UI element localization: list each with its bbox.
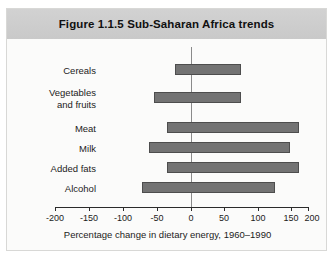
bar-alcohol xyxy=(142,182,275,193)
x-axis-tick xyxy=(224,207,225,211)
category-label-milk: Milk xyxy=(79,143,96,154)
bar-row: Added fats xyxy=(7,159,328,179)
category-label-meat: Meat xyxy=(75,123,96,134)
x-axis-tick xyxy=(291,207,292,211)
bar-row: Milk xyxy=(7,139,328,159)
bar-added-fats xyxy=(167,162,299,173)
bar-meat xyxy=(167,122,299,133)
x-tick-label: 200 xyxy=(304,213,319,223)
x-axis-tick xyxy=(308,207,309,211)
figure-title: Figure 1.1.5 Sub-Saharan Africa trends xyxy=(7,9,326,39)
category-label-line2: and fruits xyxy=(57,99,96,110)
bar-row: Meat xyxy=(7,119,328,139)
category-label-vegetables-and-fruits: Vegetables and fruits xyxy=(49,87,96,110)
x-tick-label: -100 xyxy=(114,213,132,223)
bar-row: Vegetables and fruits xyxy=(7,88,328,108)
x-tick-label: -150 xyxy=(80,213,98,223)
x-tick-label: -50 xyxy=(150,213,163,223)
x-axis-tick xyxy=(191,207,192,211)
bar-milk xyxy=(149,142,290,153)
x-tick-label: 150 xyxy=(283,213,298,223)
x-axis-tick xyxy=(55,207,56,211)
plot-area: Cereals Vegetables and fruits Meat Milk … xyxy=(7,39,328,252)
category-label-alcohol: Alcohol xyxy=(65,183,96,194)
bar-vegetables-and-fruits xyxy=(154,92,241,103)
x-tick-label: 0 xyxy=(188,213,193,223)
bar-row: Alcohol xyxy=(7,179,328,199)
x-axis-tick xyxy=(123,207,124,211)
x-tick-label: -200 xyxy=(46,213,64,223)
x-axis-tick xyxy=(157,207,158,211)
category-label-line1: Vegetables xyxy=(49,87,96,98)
category-label-cereals: Cereals xyxy=(63,65,96,76)
x-axis-caption: Percentage change in dietary energy, 196… xyxy=(7,229,328,240)
x-tick-label: 50 xyxy=(219,213,229,223)
x-axis-tick xyxy=(89,207,90,211)
x-axis-line xyxy=(55,207,308,208)
category-label-added-fats: Added fats xyxy=(51,163,96,174)
figure-container: Figure 1.1.5 Sub-Saharan Africa trends C… xyxy=(6,8,327,251)
x-tick-label: 100 xyxy=(250,213,265,223)
x-axis-tick xyxy=(258,207,259,211)
bar-cereals xyxy=(175,64,241,75)
bar-row: Cereals xyxy=(7,61,328,81)
